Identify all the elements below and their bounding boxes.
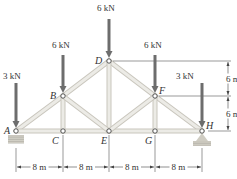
dim-horizontal-0: 8 m [33,162,47,172]
truss-diagram: 3 kN6 kN6 kN6 kN3 kN ABCDEFGH 8 m8 m8 m8… [0,0,237,179]
load-label-D: 6 kN [97,3,115,13]
extension-lines [16,61,231,172]
node-E [107,129,111,133]
dim-vertical-1: 6 m [226,109,237,119]
node-A [14,129,18,133]
node-G [153,129,157,133]
supports [8,133,211,146]
node-label-F: F [158,85,166,96]
node-D [107,59,111,63]
node-F [153,94,157,98]
load-label-F: 6 kN [144,40,162,50]
node-C [61,129,65,133]
roller-support-H [196,133,208,141]
node-label-C: C [52,135,59,146]
node-label-A: A [3,125,11,136]
node-label-H: H [205,120,214,131]
node-label-G: G [145,135,152,146]
load-label-H: 3 kN [176,71,194,81]
dim-vertical-0: 6 m [226,74,237,84]
node-label-B: B [50,90,56,101]
load-label-A: 3 kN [3,71,21,81]
dim-horizontal-3: 8 m [172,162,186,172]
node-label-D: D [94,55,103,66]
node-label-E: E [100,135,107,146]
dim-horizontal-1: 8 m [79,162,93,172]
load-label-B: 6 kN [52,40,70,50]
node-B [61,94,65,98]
node-H [200,129,204,133]
dim-horizontal-2: 8 m [125,162,139,172]
